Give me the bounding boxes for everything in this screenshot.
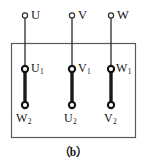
terminal-label-w2: W2 bbox=[16, 112, 31, 124]
terminal-stud-w2[interactable] bbox=[22, 102, 28, 108]
terminal-stud-u2[interactable] bbox=[69, 102, 75, 108]
terminal-label-v1-sub: 1 bbox=[87, 67, 91, 76]
terminal-label-v2-sub: 2 bbox=[113, 117, 117, 126]
terminal-label-w1-sub: 1 bbox=[128, 67, 132, 76]
supply-label-w: W bbox=[117, 9, 129, 22]
terminal-label-v1-base: V bbox=[78, 61, 87, 75]
terminal-label-w2-sub: 2 bbox=[28, 117, 32, 126]
terminal-stud-w1[interactable] bbox=[108, 66, 114, 72]
terminal-stud-v2[interactable] bbox=[108, 102, 114, 108]
supply-label-v: V bbox=[78, 9, 87, 22]
supply-terminal-dot-v[interactable] bbox=[69, 13, 74, 18]
terminal-stud-u1[interactable] bbox=[22, 66, 28, 72]
figure-caption: （b） bbox=[0, 143, 146, 159]
terminal-label-w1: W1 bbox=[116, 62, 131, 74]
terminal-label-u2-sub: 2 bbox=[73, 117, 77, 126]
figure-container: U V W U1 V1 W1 W2 U2 V2 （b） bbox=[0, 0, 146, 163]
supply-terminal-dot-w[interactable] bbox=[108, 13, 113, 18]
terminal-label-u2: U2 bbox=[64, 112, 76, 124]
terminal-label-u1-sub: 1 bbox=[40, 67, 44, 76]
terminal-label-v2: V2 bbox=[104, 112, 116, 124]
terminal-label-w2-base: W bbox=[16, 111, 27, 125]
terminal-label-u2-base: U bbox=[64, 111, 73, 125]
wiring-diagram bbox=[0, 0, 146, 163]
supply-label-u: U bbox=[31, 9, 40, 22]
terminal-label-v1: V1 bbox=[78, 62, 90, 74]
terminal-label-u1-base: U bbox=[31, 61, 40, 75]
terminal-label-w1-base: W bbox=[116, 61, 127, 75]
terminal-label-u1: U1 bbox=[31, 62, 43, 74]
terminal-stud-v1[interactable] bbox=[69, 66, 75, 72]
supply-terminal-dot-u[interactable] bbox=[22, 13, 27, 18]
terminal-label-v2-base: V bbox=[104, 111, 113, 125]
